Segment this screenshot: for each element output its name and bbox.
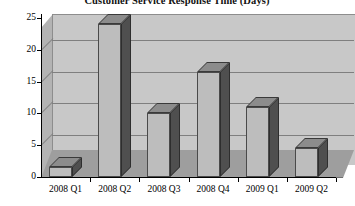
bar — [49, 167, 72, 177]
x-axis-tick — [238, 178, 239, 182]
bar — [246, 107, 269, 177]
x-axis-tick — [336, 178, 337, 182]
bar-side-face — [269, 97, 279, 177]
bar-front-face — [98, 24, 121, 177]
bar-front-face — [49, 167, 72, 177]
bar — [295, 148, 318, 177]
chart-title: Customer Service Response Time (Days) — [0, 0, 354, 6]
x-axis-tick-label: 2009 Q1 — [238, 184, 287, 194]
bar-side-face — [220, 62, 230, 177]
x-axis-tick-label: 2008 Q2 — [90, 184, 139, 194]
x-axis-tick — [189, 178, 190, 182]
y-axis-tick — [37, 82, 41, 83]
x-axis-tick-label: 2009 Q2 — [287, 184, 336, 194]
y-axis-tick — [37, 50, 41, 51]
plot-area — [41, 14, 354, 178]
bar-side-face — [121, 14, 131, 177]
bar-side-face — [170, 103, 180, 177]
y-axis-tick — [37, 113, 41, 114]
x-axis-tick-label: 2008 Q4 — [189, 184, 238, 194]
x-axis-tick — [90, 178, 91, 182]
bar-front-face — [295, 148, 318, 177]
y-axis-tick-label: 5 — [0, 139, 36, 149]
y-axis-line — [41, 14, 42, 178]
bar — [197, 72, 220, 177]
bar-front-face — [246, 107, 269, 177]
x-axis-tick — [287, 178, 288, 182]
y-axis-tick-label: 25 — [0, 12, 36, 22]
y-axis-tick — [37, 145, 41, 146]
y-axis-tick-label: 10 — [0, 107, 36, 117]
bar-front-face — [197, 72, 220, 177]
y-axis-tick-label: 20 — [0, 44, 36, 54]
bar — [98, 24, 121, 177]
bar-front-face — [147, 113, 170, 177]
x-axis-tick-label: 2008 Q1 — [41, 184, 90, 194]
y-axis-tick — [37, 18, 41, 19]
x-axis-tick-label: 2008 Q3 — [139, 184, 188, 194]
y-axis-tick-label: 15 — [0, 76, 36, 86]
y-axis-tick-label: 0 — [0, 171, 36, 181]
x-axis-tick — [139, 178, 140, 182]
bar — [147, 113, 170, 177]
